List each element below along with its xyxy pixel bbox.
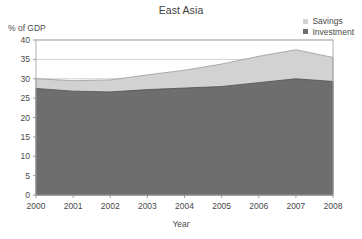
svg-text:2006: 2006 — [249, 201, 268, 211]
svg-text:2000: 2000 — [27, 201, 46, 211]
svg-text:2003: 2003 — [138, 201, 157, 211]
svg-text:2008: 2008 — [324, 201, 343, 211]
svg-text:0: 0 — [25, 190, 30, 200]
svg-text:40: 40 — [21, 35, 31, 45]
svg-text:25: 25 — [21, 93, 31, 103]
svg-text:2005: 2005 — [212, 201, 231, 211]
x-axis-label: Year — [0, 219, 362, 229]
svg-text:2007: 2007 — [286, 201, 305, 211]
svg-text:20: 20 — [21, 113, 31, 123]
chart-container: East Asia % of GDP Savings Investment 05… — [0, 0, 362, 239]
svg-text:5: 5 — [25, 171, 30, 181]
area-investment — [36, 79, 333, 195]
svg-text:10: 10 — [21, 151, 31, 161]
plot-area: 0510152025303540200020012002200320042005… — [0, 0, 362, 239]
svg-text:2002: 2002 — [101, 201, 120, 211]
svg-text:30: 30 — [21, 74, 31, 84]
svg-text:15: 15 — [21, 132, 31, 142]
svg-text:2001: 2001 — [64, 201, 83, 211]
svg-text:35: 35 — [21, 54, 31, 64]
svg-text:2004: 2004 — [175, 201, 194, 211]
